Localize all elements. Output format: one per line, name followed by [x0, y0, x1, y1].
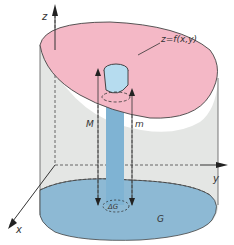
- base-region-g: [40, 179, 217, 241]
- double-integral-diagram: z x y z=f(x,y) M m ΔG G: [0, 0, 234, 245]
- surface-label: z=f(x,y): [160, 34, 197, 44]
- max-label: M: [86, 119, 94, 129]
- region-label: G: [157, 214, 164, 224]
- cell-label: ΔG: [107, 203, 119, 211]
- z-axis-label: z: [41, 11, 48, 22]
- min-label: m: [135, 119, 144, 129]
- y-axis-label: y: [212, 173, 220, 184]
- x-axis-label: x: [15, 224, 22, 235]
- z-arrow-icon: [52, 4, 58, 16]
- y-arrow-icon: [216, 162, 228, 168]
